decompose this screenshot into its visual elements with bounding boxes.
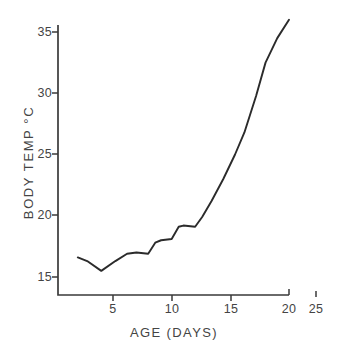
y-tick-label-25: 25 <box>26 147 52 161</box>
x-tick-label-10: 10 <box>159 302 185 316</box>
x-tick-label-5: 5 <box>100 302 126 316</box>
plot-area <box>0 0 337 351</box>
x-tick-label-25: 25 <box>303 302 329 316</box>
y-tick-label-20: 20 <box>26 208 52 222</box>
y-tick-label-35: 35 <box>26 25 52 39</box>
chart-figure: BODY TEMP °C AGE (DAYS) 35 30 25 20 15 5… <box>0 0 337 351</box>
data-line-series <box>78 20 289 271</box>
y-tick-label-15: 15 <box>26 270 52 284</box>
y-tick-label-30: 30 <box>26 86 52 100</box>
y-axis-ticks <box>52 32 58 277</box>
x-tick-label-20: 20 <box>276 302 302 316</box>
x-axis-title: AGE (DAYS) <box>58 325 290 340</box>
axis-spines <box>58 25 289 295</box>
x-tick-label-15: 15 <box>218 302 244 316</box>
